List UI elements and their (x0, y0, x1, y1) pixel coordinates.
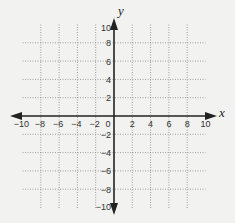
x-tick-label: −6 (53, 119, 63, 129)
x-axis-label: x (218, 105, 225, 120)
coordinate-plane: −10−8−6−4−20246810108642−2−4−6−8−10 x y (0, 0, 235, 223)
y-tick-label: −2 (101, 130, 111, 140)
x-tick-label: −4 (71, 119, 81, 129)
y-tick-label: −4 (101, 148, 111, 158)
x-tick-label: −10 (14, 119, 29, 129)
y-tick-label: 4 (106, 75, 111, 85)
tick-labels: −10−8−6−4−20246810108642−2−4−6−8−10 (14, 23, 211, 212)
y-axis-arrow-down-icon (110, 203, 118, 215)
x-tick-label: 0 (105, 119, 110, 129)
x-tick-label: 6 (166, 119, 171, 129)
y-tick-label: 8 (106, 38, 111, 48)
x-tick-label: 8 (185, 119, 190, 129)
x-tick-label: 10 (200, 119, 210, 129)
y-tick-label: −6 (101, 166, 111, 176)
x-tick-label: −8 (35, 119, 45, 129)
y-axis-label: y (116, 3, 124, 18)
y-tick-label: 10 (101, 23, 111, 33)
y-tick-label: −8 (101, 185, 111, 195)
x-tick-label: 2 (130, 119, 135, 129)
x-tick-label: −2 (90, 119, 100, 129)
y-tick-label: 6 (106, 57, 111, 67)
x-tick-label: 4 (148, 119, 153, 129)
y-axis-arrow-up-icon (110, 18, 118, 30)
y-tick-label: 2 (106, 93, 111, 103)
y-tick-label: −10 (96, 202, 111, 212)
